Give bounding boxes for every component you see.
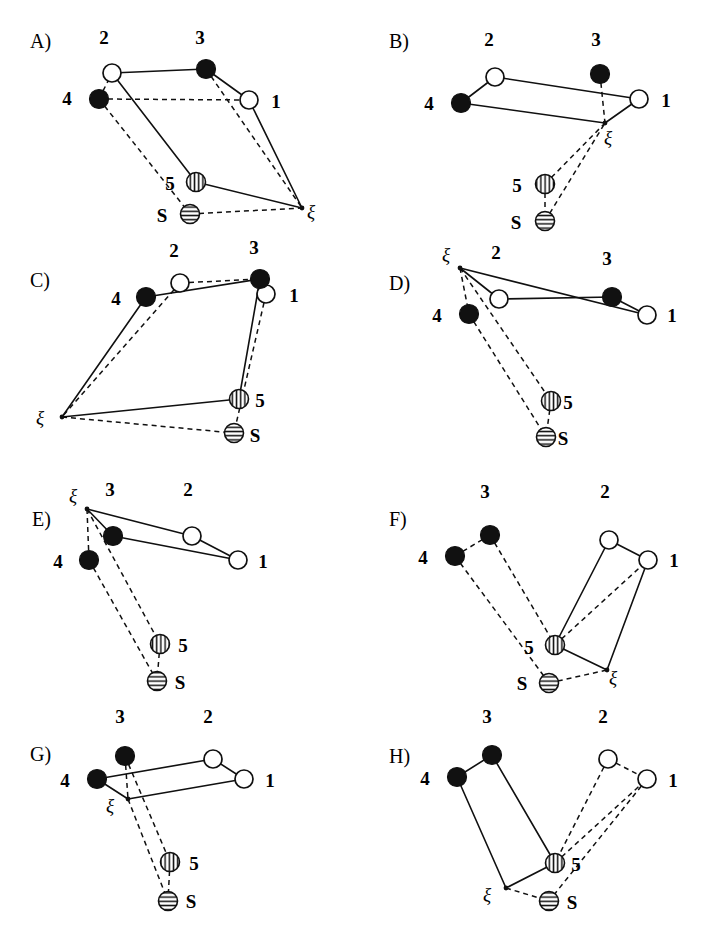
xi-label: ξ (604, 127, 613, 148)
node-marker-filled-circle (251, 270, 270, 289)
node-1 (638, 306, 656, 324)
node-label-3: 3 (105, 479, 115, 500)
node-marker-filled-circle (80, 551, 99, 570)
node-label-2: 2 (99, 27, 109, 48)
solid-edge-xi-5 (62, 399, 239, 417)
node-label-1: 1 (669, 550, 679, 571)
node-marker-filled-circle (448, 768, 467, 787)
node-label-5: 5 (255, 390, 265, 411)
xi-label: ξ (307, 201, 316, 222)
node-3 (197, 60, 216, 79)
node-2 (183, 527, 201, 545)
panel-g: 12345SξG) (0, 711, 359, 948)
node-label-4: 4 (53, 551, 63, 572)
node-1 (229, 551, 247, 569)
node-marker-open-circle (638, 306, 656, 324)
xi-vertex-dot (504, 886, 509, 891)
xi-vertex-dot (126, 797, 131, 802)
node-label-3: 3 (249, 237, 259, 258)
xi-label: ξ (483, 884, 492, 905)
node-marker-vertical-hatched-circle (187, 173, 206, 192)
solid-edge-3-1 (113, 536, 238, 560)
node-marker-vertical-hatched-circle (546, 636, 565, 655)
solid-edge-4-2 (97, 759, 213, 779)
node-marker-vertical-hatched-circle (230, 390, 249, 409)
dashed-edge-3-xi (206, 69, 302, 208)
node-marker-filled-circle (460, 305, 479, 324)
node-label-2: 2 (491, 242, 501, 263)
node-marker-open-circle (183, 527, 201, 545)
node-label-2: 2 (169, 240, 179, 261)
node-label-4: 4 (424, 93, 434, 114)
panel-e: 12345SξE) (0, 474, 359, 711)
solid-edge-3-5 (492, 755, 555, 863)
node-marker-open-circle (638, 770, 656, 788)
panel-letter-c: C) (30, 269, 50, 292)
node-label-2: 2 (600, 481, 610, 502)
node-s (536, 212, 555, 231)
node-label-s: S (157, 205, 168, 226)
node-label-1: 1 (668, 770, 678, 791)
node-s (159, 892, 178, 911)
panel-h: 12345SξH) (359, 711, 718, 948)
xi-vertex-dot (60, 415, 65, 420)
node-5 (536, 175, 555, 194)
node-4 (90, 90, 109, 109)
node-label-1: 1 (265, 770, 275, 791)
dashed-edge-xi-S (62, 417, 234, 433)
node-marker-filled-circle (104, 527, 123, 546)
solid-edge-xi-2 (87, 509, 192, 536)
node-3 (251, 270, 270, 289)
dashed-edge-4-S (455, 556, 549, 683)
node-label-3: 3 (480, 481, 490, 502)
node-marker-vertical-hatched-circle (161, 853, 180, 872)
panel-letter-f: F) (389, 508, 407, 531)
node-s (540, 674, 559, 693)
solid-edge-2-5 (555, 540, 609, 645)
solid-edge-1-xi (607, 560, 648, 670)
xi-vertex-dot (300, 206, 305, 211)
node-marker-open-circle (639, 551, 657, 569)
node-marker-open-circle (600, 531, 618, 549)
node-5 (161, 853, 180, 872)
node-marker-horizontal-hatched-circle (536, 212, 555, 231)
node-label-3: 3 (591, 29, 601, 50)
node-label-2: 2 (598, 706, 608, 727)
node-label-s: S (186, 891, 197, 912)
dashed-edge-3-5 (490, 535, 555, 645)
dashed-edge-S-xi (545, 123, 605, 221)
node-marker-open-circle (171, 274, 189, 292)
node-label-4: 4 (60, 770, 70, 791)
node-label-3: 3 (602, 248, 612, 269)
node-label-s: S (567, 892, 578, 913)
node-marker-open-circle (229, 551, 247, 569)
node-3 (603, 288, 622, 307)
node-marker-vertical-hatched-circle (151, 635, 170, 654)
node-label-3: 3 (195, 27, 205, 48)
node-1 (235, 770, 253, 788)
dashed-edge-1-S (234, 294, 266, 433)
solid-edge-2-3 (499, 297, 612, 299)
node-marker-vertical-hatched-circle (546, 854, 565, 873)
node-marker-filled-circle (88, 770, 107, 789)
node-label-2: 2 (484, 29, 494, 50)
panel-letter-d: D) (389, 272, 410, 295)
node-label-5: 5 (165, 173, 175, 194)
dashed-edge-2-xi (62, 283, 180, 417)
dashed-edge-2-5 (555, 759, 608, 863)
node-label-1: 1 (667, 305, 677, 326)
solid-edge-4-3 (146, 279, 260, 297)
node-2 (171, 274, 189, 292)
node-marker-open-circle (599, 750, 617, 768)
node-4 (446, 547, 465, 566)
node-label-5: 5 (524, 637, 534, 658)
solid-edge-4-xi (62, 297, 146, 417)
node-marker-horizontal-hatched-circle (159, 892, 178, 911)
node-1 (240, 91, 258, 109)
node-label-1: 1 (271, 91, 281, 112)
node-marker-filled-circle (452, 94, 471, 113)
node-5 (546, 854, 565, 873)
node-label-5: 5 (512, 175, 522, 196)
node-4 (137, 288, 156, 307)
node-marker-filled-circle (481, 526, 500, 545)
